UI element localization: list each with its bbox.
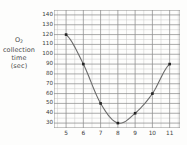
data-point [65, 33, 68, 36]
data-point [99, 102, 102, 105]
y-axis-tick-label: 130 [42, 22, 53, 28]
y-axis-tick-label: 30 [46, 120, 53, 126]
x-axis-tick-label: 10 [149, 130, 156, 136]
data-point [151, 92, 154, 95]
y-axis-tick-label: 100 [42, 51, 53, 57]
y-axis-tick-label: 110 [42, 42, 53, 48]
y-axis-tick-label: 120 [42, 32, 53, 38]
x-axis-tick-label: 8 [116, 130, 120, 136]
y-axis-tick-label: 40 [46, 110, 53, 116]
y-axis-tick-label: 90 [46, 61, 53, 67]
x-axis-tick-label: 6 [81, 130, 85, 136]
x-axis-tick-label: 5 [64, 130, 68, 136]
x-axis-tick-label: 11 [166, 130, 173, 136]
data-point [168, 63, 171, 66]
y-axis-title-line-4: (sec) [0, 62, 42, 70]
y-axis-title-line-1: O2 [0, 36, 42, 46]
data-point [134, 112, 137, 115]
plot-area [54, 10, 180, 128]
y-axis-title-line-2: collection [0, 46, 42, 54]
y-axis-tick-label: 140 [42, 12, 53, 18]
graph-paper-sheet: O2 collection time (sec) 140130120110100… [0, 0, 187, 145]
y-axis-tick-label: 50 [46, 101, 53, 107]
grid-minor-lines [54, 10, 180, 128]
graph-svg [54, 10, 180, 128]
data-point [82, 63, 85, 66]
y-axis-tick-label: 60 [46, 91, 53, 97]
y-axis-tick-label: 70 [46, 81, 53, 87]
y-axis-tick-label: 80 [46, 71, 53, 77]
y-axis-title: O2 collection time (sec) [0, 36, 42, 70]
x-axis-tick-label: 9 [133, 130, 137, 136]
y-axis-title-line-3: time [0, 54, 42, 62]
data-point [117, 122, 120, 125]
x-axis-tick-label: 7 [99, 130, 103, 136]
x-axis-tick-labels: 567891011 [54, 130, 180, 142]
y-axis-tick-labels: 14013012011010090807060504030 [38, 10, 53, 128]
